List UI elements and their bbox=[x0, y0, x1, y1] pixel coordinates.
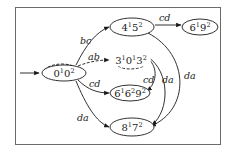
edge-label-da-n3-n5: da bbox=[162, 74, 174, 85]
edge-label-da-n0-n5: da bbox=[77, 112, 89, 123]
edge-label-da-n1-n5: da bbox=[184, 70, 196, 81]
svg-text:310132: 310132 bbox=[115, 54, 147, 66]
state-diagram: 0102 4152 6192 310132 616292 8172 bc ab … bbox=[0, 0, 235, 152]
edge-label-bc: bc bbox=[80, 35, 92, 46]
edge-label-cd-n0-n4: cd bbox=[89, 78, 100, 89]
node-n0: 0102 bbox=[42, 65, 86, 81]
edge-label-ab: ab bbox=[88, 51, 100, 62]
node-n5: 8172 bbox=[110, 118, 154, 136]
node-n2: 6192 bbox=[182, 19, 218, 35]
svg-text:616292: 616292 bbox=[114, 87, 146, 99]
edge-label-cd-n3-n4: cd bbox=[143, 74, 154, 85]
edge-n3-n5 bbox=[148, 57, 165, 125]
node-n1: 4152 bbox=[110, 18, 154, 36]
edge-label-cd-n1-n2: cd bbox=[159, 12, 170, 23]
node-n4: 616292 bbox=[110, 85, 150, 101]
node-n3: 310132 bbox=[111, 52, 151, 68]
